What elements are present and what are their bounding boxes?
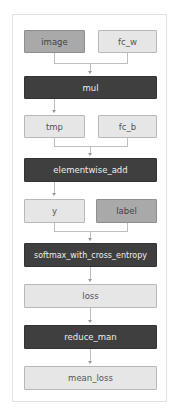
arrow-down-icon xyxy=(52,110,56,113)
edge-fcw-down xyxy=(127,53,128,63)
arrow-down-icon xyxy=(88,238,92,241)
node-tmp: tmp xyxy=(24,115,85,138)
node-mul: mul xyxy=(24,76,157,99)
arrow-down-icon xyxy=(88,153,92,156)
edge-merge-2 xyxy=(54,146,128,147)
arrow-down-icon xyxy=(88,279,92,282)
node-fc-w: fc_w xyxy=(98,30,157,53)
edge-fcb-down xyxy=(127,138,128,146)
arrow-down-icon xyxy=(88,320,92,323)
edge-label-down xyxy=(127,223,128,231)
arrow-down-icon xyxy=(52,193,56,196)
arrow-down-icon xyxy=(88,361,92,364)
edge-tmp-down xyxy=(54,138,55,146)
node-loss: loss xyxy=(24,284,157,308)
node-mean-loss: mean_loss xyxy=(24,366,157,390)
node-reduce-man: reduce_man xyxy=(24,325,157,349)
arrow-down-icon xyxy=(88,71,92,74)
node-image: image xyxy=(24,30,85,53)
edge-merge-1 xyxy=(54,63,128,64)
node-elementwise-add: elementwise_add xyxy=(24,158,157,182)
node-label: label xyxy=(96,199,157,223)
node-softmax-with-cross-entropy: softmax_with_cross_entropy xyxy=(24,243,157,267)
edge-y-down xyxy=(54,223,55,231)
node-y: y xyxy=(24,199,85,223)
edge-merge-3 xyxy=(54,231,128,232)
node-fc-b: fc_b xyxy=(98,115,157,138)
edge-image-down xyxy=(54,53,55,63)
